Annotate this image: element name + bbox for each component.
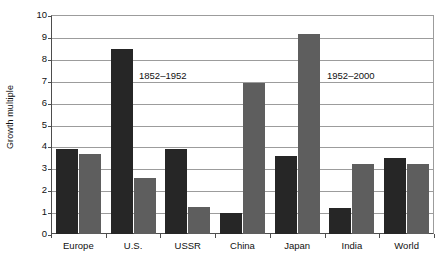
y-axis-tick-label: 7 <box>17 76 47 86</box>
y-axis-tick-label: 0 <box>17 229 47 239</box>
x-axis-tick-mark <box>51 234 52 238</box>
x-axis-category-label-ussr: USSR <box>160 240 215 252</box>
y-axis-tick-mark <box>48 213 52 214</box>
gridline <box>52 38 433 39</box>
x-axis-tick-mark <box>379 234 380 238</box>
gridline <box>52 82 433 83</box>
gridline <box>52 169 433 170</box>
y-axis-tick-mark <box>48 104 52 105</box>
y-axis-tick-label: 1 <box>17 207 47 217</box>
y-axis-tick-mark <box>48 82 52 83</box>
annotation-period-1: 1852–1952 <box>137 70 189 81</box>
y-axis-tick-label: 9 <box>17 32 47 42</box>
y-axis-tick-labels: 109876543210 <box>13 15 47 234</box>
y-axis-tick-label: 3 <box>17 163 47 173</box>
x-axis-category-label-china: China <box>215 240 270 252</box>
x-axis-tick-mark <box>325 234 326 238</box>
annotation-period-2: 1952–2000 <box>325 70 377 81</box>
x-axis-category-label-india: India <box>325 240 380 252</box>
gridline <box>52 147 433 148</box>
x-axis-category-label-japan: Japan <box>270 240 325 252</box>
x-axis-tick-mark <box>106 234 107 238</box>
x-axis-category-label-europe: Europe <box>51 240 106 252</box>
x-axis-category-label-us: U.S. <box>106 240 161 252</box>
y-axis-tick-mark <box>48 169 52 170</box>
y-axis-tick-mark <box>48 38 52 39</box>
y-axis-tick-label: 10 <box>17 10 47 20</box>
x-axis-tick-mark <box>270 234 271 238</box>
y-axis-tick-mark <box>48 191 52 192</box>
gridline <box>52 104 433 105</box>
gridline <box>52 191 433 192</box>
x-axis-tick-mark <box>434 234 435 238</box>
y-axis-tick-label: 6 <box>17 98 47 108</box>
y-axis-tick-label: 8 <box>17 54 47 64</box>
x-axis-tick-mark <box>160 234 161 238</box>
y-axis-tick-label: 4 <box>17 141 47 151</box>
plot-area <box>51 15 434 234</box>
gridline <box>52 213 433 214</box>
y-axis-tick-mark <box>48 147 52 148</box>
y-axis-tick-label: 2 <box>17 185 47 195</box>
y-axis-tick-label: 5 <box>17 120 47 130</box>
gridline <box>52 60 433 61</box>
x-axis-tick-mark <box>215 234 216 238</box>
gridline <box>52 126 433 127</box>
x-axis-category-label-world: World <box>379 240 434 252</box>
y-axis-tick-mark <box>48 16 52 17</box>
y-axis-tick-mark <box>48 60 52 61</box>
growth-multiple-bar-chart: Growth multiple 109876543210 EuropeU.S.U… <box>0 0 446 263</box>
y-axis-tick-mark <box>48 126 52 127</box>
